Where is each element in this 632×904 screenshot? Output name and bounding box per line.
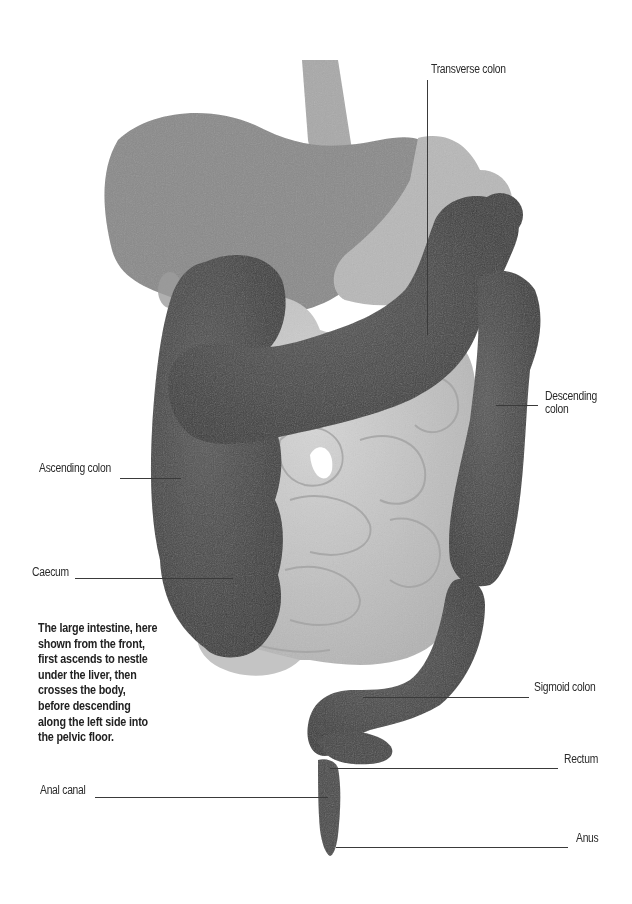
leader-anal-canal (95, 797, 328, 798)
leader-descending-colon (496, 405, 538, 406)
caption-line: before descending (38, 699, 184, 715)
leader-sigmoid-colon (363, 697, 529, 698)
caption-line: crosses the body, (38, 683, 184, 699)
caption-line: along the left side into (38, 715, 184, 731)
caption-line: The large intestine, here (38, 621, 184, 637)
label-rectum: Rectum (564, 753, 598, 766)
caption-line: under the liver, then (38, 668, 184, 684)
label-anus: Anus (576, 832, 598, 845)
figure-caption: The large intestine, here shown from the… (38, 621, 184, 746)
ascending-colon (151, 255, 286, 657)
leader-ascending-colon (120, 478, 181, 479)
label-sigmoid-colon: Sigmoid colon (534, 681, 595, 694)
label-caecum: Caecum (32, 566, 69, 579)
label-descending-colon-line2: colon (545, 403, 568, 416)
label-anal-canal: Anal canal (40, 784, 86, 797)
caption-line: shown from the front, (38, 637, 184, 653)
rectum (318, 759, 340, 856)
caption-line: the pelvic floor. (38, 730, 184, 746)
leader-anus (336, 847, 568, 848)
leader-caecum (75, 578, 233, 579)
label-ascending-colon: Ascending colon (39, 462, 111, 475)
leader-transverse-colon (427, 80, 428, 335)
caption-line: first ascends to nestle (38, 652, 184, 668)
leader-rectum (330, 768, 558, 769)
label-transverse-colon: Transverse colon (431, 63, 506, 76)
